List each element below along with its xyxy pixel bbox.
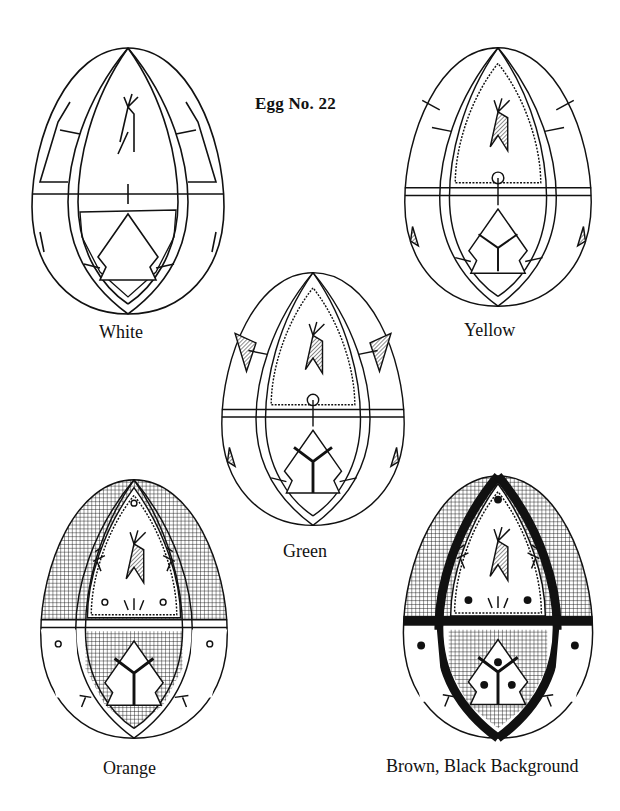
egg-drawing-brown-black <box>398 470 598 744</box>
caption-brown-black: Brown, Black Background <box>386 756 578 777</box>
caption-white: White <box>99 322 143 343</box>
page-title: Egg No. 22 <box>255 94 336 114</box>
caption-yellow: Yellow <box>464 320 515 341</box>
egg-brown-black <box>398 470 598 744</box>
egg-drawing-white <box>28 42 228 320</box>
caption-orange: Orange <box>103 758 156 779</box>
caption-green: Green <box>283 541 327 562</box>
egg-yellow <box>398 42 598 312</box>
egg-drawing-green <box>218 264 408 534</box>
egg-drawing-yellow <box>398 42 598 312</box>
egg-green <box>218 264 408 534</box>
egg-white <box>28 42 228 320</box>
egg-orange <box>36 474 232 744</box>
egg-drawing-orange <box>36 474 232 744</box>
